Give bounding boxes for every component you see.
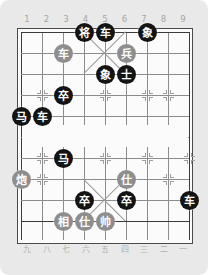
horse-black-1[interactable]: 马 [12,107,31,126]
river-band [22,125,188,147]
minister-red-1[interactable]: 相 [54,212,73,231]
file-label-bottom-4: 六 [80,243,92,257]
piece-label: 象 [142,27,153,38]
file-labels-bottom: 九八七六五四三二一 [21,243,189,257]
piece-label: 兵 [121,48,132,59]
chariot-black-1[interactable]: 车 [96,23,115,42]
file-label-bottom-6: 四 [119,243,131,257]
soldier-red-1[interactable]: 兵 [117,44,136,63]
elephant-black-2[interactable]: 象 [96,65,115,84]
piece-label: 象 [100,69,111,80]
elephant-black-1[interactable]: 象 [138,23,157,42]
piece-label: 车 [58,48,69,59]
grid-hline-6 [21,158,189,159]
cannon-red-1[interactable]: 炮 [12,170,31,189]
grid-hline-3 [21,95,189,96]
piece-label: 车 [100,27,111,38]
piece-label: 卒 [58,90,69,101]
chariot-black-3[interactable]: 车 [180,191,199,210]
advisor-red-1[interactable]: 仕 [117,170,136,189]
chariot-black-2[interactable]: 车 [33,107,52,126]
file-label-top-3: 3 [60,12,72,26]
horse-black-2[interactable]: 马 [54,149,73,168]
file-label-bottom-9: 一 [177,243,189,257]
file-label-bottom-3: 七 [60,243,72,257]
advisor-red-2[interactable]: 仕 [75,212,94,231]
file-label-top-1: 1 [21,12,33,26]
soldier-black-1[interactable]: 卒 [54,86,73,105]
file-label-bottom-5: 五 [99,243,111,257]
piece-label: 炮 [16,174,27,185]
file-label-bottom-8: 二 [158,243,170,257]
piece-label: 相 [58,216,69,227]
file-label-top-9: 9 [177,12,189,26]
piece-label: 车 [184,195,195,206]
piece-label: 卒 [121,195,132,206]
piece-label: 仕 [121,174,132,185]
piece-label: 车 [37,111,48,122]
piece-label: 马 [58,153,69,164]
file-label-top-8: 8 [158,12,170,26]
file-label-bottom-7: 三 [138,243,150,257]
piece-label: 士 [121,69,132,80]
file-label-bottom-1: 九 [21,243,33,257]
chariot-red-1[interactable]: 车 [54,44,73,63]
piece-label: 将 [79,27,90,38]
file-label-bottom-2: 八 [41,243,53,257]
piece-label: 仕 [79,216,90,227]
xiangqi-app: 123456789 将车象车兵象士卒马车马炮仕卒卒车相仕帅 九八七六五四三二一 [0,0,208,275]
general-black[interactable]: 将 [75,23,94,42]
grid-hline-7 [21,179,189,180]
marshal-red[interactable]: 帅 [96,212,115,231]
advisor-black-1[interactable]: 士 [117,65,136,84]
file-label-top-2: 2 [41,12,53,26]
piece-label: 帅 [100,216,111,227]
piece-label: 马 [16,111,27,122]
board-grid [21,32,189,240]
soldier-black-2[interactable]: 卒 [75,191,94,210]
xiangqi-board[interactable]: 将车象车兵象士卒马车马炮仕卒卒车相仕帅 [21,32,189,240]
soldier-black-3[interactable]: 卒 [117,191,136,210]
file-label-top-6: 6 [119,12,131,26]
piece-label: 卒 [79,195,90,206]
